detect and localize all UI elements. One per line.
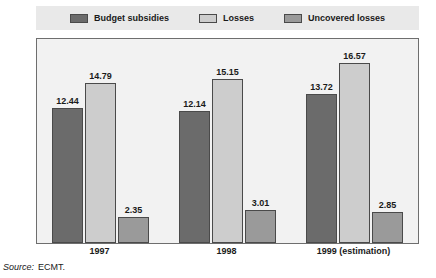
source-label: Source:: [3, 262, 34, 272]
bar-slot: 13.72: [306, 39, 337, 243]
bar-losses-1999-estimation-: [339, 63, 370, 243]
bar-value-label: 16.57: [343, 52, 366, 61]
chart-plot-area: 12.4414.792.3512.1415.153.0113.7216.572.…: [36, 38, 419, 244]
bar-uncovered-losses-1999-estimation-: [372, 212, 403, 243]
legend-label-budget-subsidies: Budget subsidies: [94, 14, 169, 23]
x-axis-label-1997: 1997: [89, 247, 109, 256]
bar-value-label: 2.85: [379, 201, 397, 210]
bar-slot: 12.14: [179, 39, 210, 243]
bar-value-label: 15.15: [216, 68, 239, 77]
bar-value-label: 2.35: [125, 206, 143, 215]
chart-legend: Budget subsidies Losses Uncovered losses: [36, 6, 419, 30]
bar-group-1997: 12.4414.792.35: [37, 39, 164, 243]
legend-entry-uncovered-losses: Uncovered losses: [284, 14, 385, 23]
legend-swatch-losses: [199, 14, 217, 23]
x-axis-label-1999-estimation-: 1999 (estimation): [317, 247, 391, 256]
bar-slot: 16.57: [339, 39, 370, 243]
bar-slot: 2.35: [118, 39, 149, 243]
bar-group-1998: 12.1415.153.01: [164, 39, 291, 243]
bar-slot: 2.85: [372, 39, 403, 243]
bar-slot: 3.01: [245, 39, 276, 243]
bar-losses-1998: [212, 79, 243, 243]
bar-value-label: 3.01: [252, 199, 270, 208]
bar-budget-subsidies-1999-estimation-: [306, 94, 337, 243]
legend-swatch-uncovered-losses: [284, 14, 302, 23]
source-value: ECMT.: [38, 262, 65, 272]
bar-uncovered-losses-1998: [245, 210, 276, 243]
bar-value-label: 13.72: [310, 83, 333, 92]
chart-bars-container: 12.4414.792.3512.1415.153.0113.7216.572.…: [37, 39, 418, 243]
bar-slot: 12.44: [52, 39, 83, 243]
x-axis-label-1998: 1998: [216, 247, 236, 256]
bar-uncovered-losses-1997: [118, 217, 149, 243]
source-note: Source:ECMT.: [3, 263, 65, 272]
legend-entry-budget-subsidies: Budget subsidies: [70, 14, 169, 23]
bar-budget-subsidies-1997: [52, 108, 83, 243]
bar-value-label: 14.79: [89, 72, 112, 81]
bar-value-label: 12.44: [56, 97, 79, 106]
bar-value-label: 12.14: [183, 100, 206, 109]
bar-group-1999-estimation-: 13.7216.572.85: [291, 39, 418, 243]
bar-slot: 15.15: [212, 39, 243, 243]
legend-swatch-budget-subsidies: [70, 14, 88, 23]
legend-label-losses: Losses: [223, 14, 254, 23]
bar-losses-1997: [85, 83, 116, 243]
legend-label-uncovered-losses: Uncovered losses: [308, 14, 385, 23]
legend-entry-losses: Losses: [199, 14, 254, 23]
bar-budget-subsidies-1998: [179, 111, 210, 243]
bar-slot: 14.79: [85, 39, 116, 243]
